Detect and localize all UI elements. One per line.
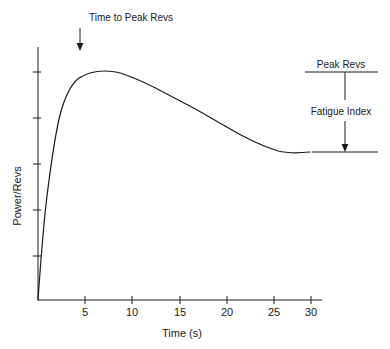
x-tick-label: 20 (221, 306, 233, 318)
peak-revs-label: Peak Revs (317, 59, 365, 70)
time-to-peak-revs-arrow-head (77, 43, 84, 51)
fatigue-index-arrow-head (342, 144, 349, 152)
x-tick-label: 25 (268, 306, 280, 318)
annotation-fatigue-index: Fatigue Index (311, 72, 378, 152)
chart-figure: 5 10 15 20 25 30 Time (s) Power/Revs Tim… (0, 0, 390, 349)
x-axis-title: Time (s) (162, 327, 202, 339)
chart-svg: 5 10 15 20 25 30 Time (s) Power/Revs Tim… (0, 0, 390, 349)
y-axis-title: Power/Revs (11, 166, 23, 226)
x-tick-label: 10 (126, 306, 138, 318)
y-axis-ticks (33, 72, 41, 256)
time-to-peak-revs-label: Time to Peak Revs (89, 12, 173, 23)
x-axis-tick-labels: 5 10 15 20 25 30 (82, 306, 317, 318)
x-tick-label: 30 (305, 306, 317, 318)
annotation-peak-revs: Peak Revs (305, 59, 378, 72)
axes-group (38, 47, 322, 300)
x-tick-label: 5 (82, 306, 88, 318)
annotation-time-to-peak-revs: Time to Peak Revs (77, 12, 174, 51)
power-revs-curve (38, 71, 310, 300)
fatigue-index-label: Fatigue Index (311, 106, 372, 117)
x-tick-label: 15 (174, 306, 186, 318)
